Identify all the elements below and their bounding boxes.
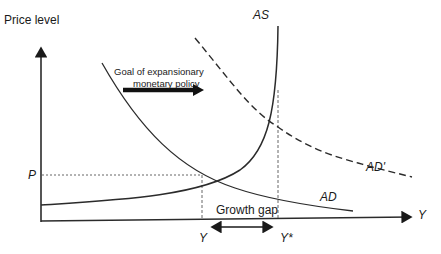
x-axis-label: Y xyxy=(418,208,426,222)
price-marker-label: P xyxy=(28,168,36,182)
ad-curve-label: AD xyxy=(320,190,337,204)
x-axis xyxy=(41,217,411,221)
ad-prime-curve-label: AD' xyxy=(366,160,385,174)
policy-annotation-line2: monetary policy xyxy=(133,78,200,89)
potential-output-marker-label: Y* xyxy=(280,231,293,245)
as-curve-label: AS xyxy=(253,8,269,22)
output-marker-label: Y xyxy=(199,231,207,245)
as-curve xyxy=(41,26,278,205)
ad-prime-curve xyxy=(195,38,412,177)
policy-annotation-line1: Goal of expansionary xyxy=(114,66,204,77)
y-axis-title: Price level xyxy=(4,13,59,27)
growth-gap-label: Growth gap xyxy=(216,203,278,217)
